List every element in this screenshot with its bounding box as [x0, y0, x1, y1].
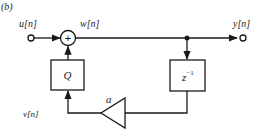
adder: +	[61, 31, 76, 46]
delay-block: z−1	[170, 60, 205, 91]
plus-icon: +	[65, 32, 71, 44]
output-terminal	[240, 35, 246, 41]
gain-label: a	[106, 93, 112, 105]
block-diagram: (b) u[n] + w[n] y[n] z−1 a v[n] Q	[0, 0, 263, 137]
quantizer-block: Q	[51, 60, 84, 90]
quantizer-label: Q	[64, 69, 72, 81]
gain-amplifier	[101, 98, 125, 128]
adder-output-label: w[n]	[80, 18, 100, 29]
gain-output-wire	[68, 91, 101, 113]
quantizer-input-label: v[n]	[23, 109, 39, 119]
output-signal-label: y[n]	[232, 18, 250, 29]
input-terminal	[28, 35, 34, 41]
panel-label: (b)	[1, 1, 13, 13]
feedback-wire	[125, 91, 187, 113]
input-signal-label: u[n]	[19, 18, 37, 29]
